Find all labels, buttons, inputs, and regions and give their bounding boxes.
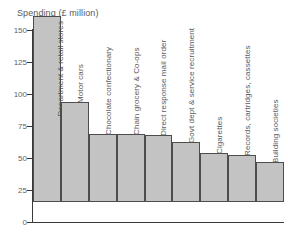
bar: Building societies [256,162,284,202]
bar: Chain grocery & Co-ops [117,134,145,202]
y-tick-label: 100 [3,90,27,99]
y-tick-label: 150 [3,26,27,35]
bar-label: Motor cars [77,64,85,103]
bar: Department & retail stores [33,16,61,202]
bar-label: Direct response mail order [160,40,168,136]
bar-chart: Spending (£ million) 0255075100125150 De… [0,0,288,243]
y-tick-label: 75 [3,122,27,131]
bar-label: Building societies [272,100,280,164]
bar-label: Govt dept & service recruitment [188,28,196,143]
bar-label: Chocolate confectionary [105,47,113,135]
y-tick-label: 50 [3,154,27,163]
bar-series: Department & retail storesMotor carsChoc… [33,0,284,223]
bar: Govt dept & service recruitment [172,142,200,202]
y-tick-label: 25 [3,186,27,195]
bar: Records, cartridges, cassettes [228,155,256,202]
bar-label: Cigarettes [216,117,224,154]
bar: Cigarettes [200,153,228,202]
y-tick-label: 125 [3,58,27,67]
bar: Motor cars [61,102,89,202]
bar-label: Records, cartridges, cassettes [244,45,252,156]
bar-label: Chain grocery & Co-ops [133,48,141,136]
bar: Direct response mail order [145,135,173,202]
bar: Chocolate confectionary [89,134,117,202]
y-tick-label: 0 [3,218,27,227]
